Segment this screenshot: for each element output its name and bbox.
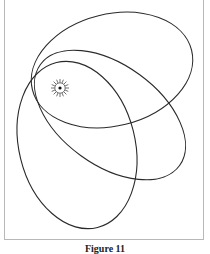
orbit-a bbox=[19, 0, 205, 144]
orbit-b bbox=[11, 24, 209, 206]
sun-icon bbox=[51, 79, 69, 97]
figure-caption: Figure 11 bbox=[0, 243, 210, 254]
orbit-c bbox=[0, 48, 154, 241]
